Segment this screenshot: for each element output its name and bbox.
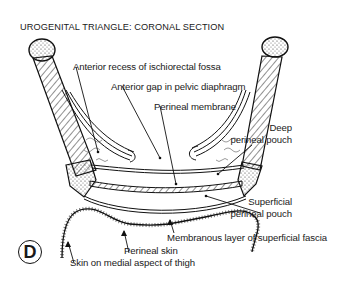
label-superficial-pouch-2: perineal pouch <box>230 208 292 219</box>
label-membranous-layer: Membranous layer of superficial fascia <box>167 232 327 243</box>
label-superficial-pouch-1: Superficial <box>248 196 292 207</box>
label-skin-thigh: Skin on medial aspect of thigh <box>70 257 195 268</box>
superior-fascia-deep-pouch <box>92 165 244 173</box>
coronal-section-illustration <box>0 0 352 286</box>
label-deep-pouch-1: Deep <box>269 122 292 133</box>
left-tuberosity <box>66 160 96 197</box>
label-perineal-membrane: Perineal membrane <box>154 101 236 112</box>
membranous-fascia <box>84 196 246 213</box>
ischiorectal-fat <box>84 138 240 162</box>
panel-letter-badge: D <box>18 240 42 264</box>
perineal-membrane-band <box>90 181 242 193</box>
right-ischiopubic-ramus <box>242 37 288 170</box>
label-deep-pouch-2: perineal pouch <box>230 134 292 145</box>
figure-title: UROGENITAL TRIANGLE: CORONAL SECTION <box>20 22 224 32</box>
left-ischiopubic-ramus <box>29 39 96 176</box>
right-tuberosity <box>238 162 262 196</box>
label-anterior-gap: Anterior gap in pelvic diaphragm <box>111 81 245 92</box>
label-perineal-skin: Perineal skin <box>124 245 178 256</box>
label-anterior-recess: Anterior recess of ischiorectal fossa <box>73 61 221 72</box>
